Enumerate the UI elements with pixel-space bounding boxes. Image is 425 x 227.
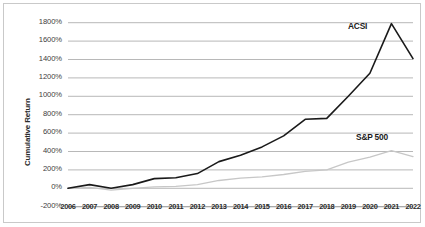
y-axis-tick-label: 1600%	[20, 35, 62, 44]
y-axis-tick-label: 600%	[20, 127, 62, 136]
series-line-acsi	[68, 24, 413, 189]
series-label-acsi: ACSI	[348, 21, 367, 31]
series-label-s-p-500: S&P 500	[356, 132, 388, 142]
chart-frame: Cumulative Return 1800%1600%1400%1200%10…	[3, 3, 421, 223]
y-axis-tick-label: 0%	[20, 182, 62, 191]
y-axis-tick-label: 1200%	[20, 72, 62, 81]
y-axis-tick-label: 1800%	[20, 17, 62, 26]
series-line-s-p-500	[68, 151, 413, 191]
chart-plot-area	[4, 4, 425, 227]
y-axis-tick-label: 800%	[20, 109, 62, 118]
y-axis-tick-label: 200%	[20, 164, 62, 173]
y-axis-tick-label: 1400%	[20, 54, 62, 63]
x-axis-tick-label: 2022	[399, 202, 425, 211]
y-axis-tick-label: 1000%	[20, 90, 62, 99]
y-axis-tick-label: 400%	[20, 146, 62, 155]
